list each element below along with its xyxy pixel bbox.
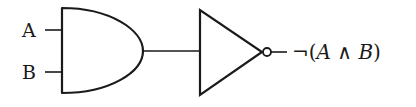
output-var-a: A [315, 40, 331, 64]
logic-diagram: A B ¬(A ∧ B) [0, 0, 416, 107]
output-expression: ¬(A ∧ B) [292, 40, 381, 64]
and-gate [62, 8, 143, 93]
inversion-bubble [263, 48, 271, 56]
input-label-b: B [22, 61, 36, 83]
output-op: ∧ [331, 40, 358, 64]
output-close: ) [373, 40, 381, 64]
output-var-b: B [357, 40, 373, 64]
input-label-a: A [21, 19, 36, 41]
not-gate [200, 10, 262, 95]
output-neg: ¬( [292, 40, 317, 64]
